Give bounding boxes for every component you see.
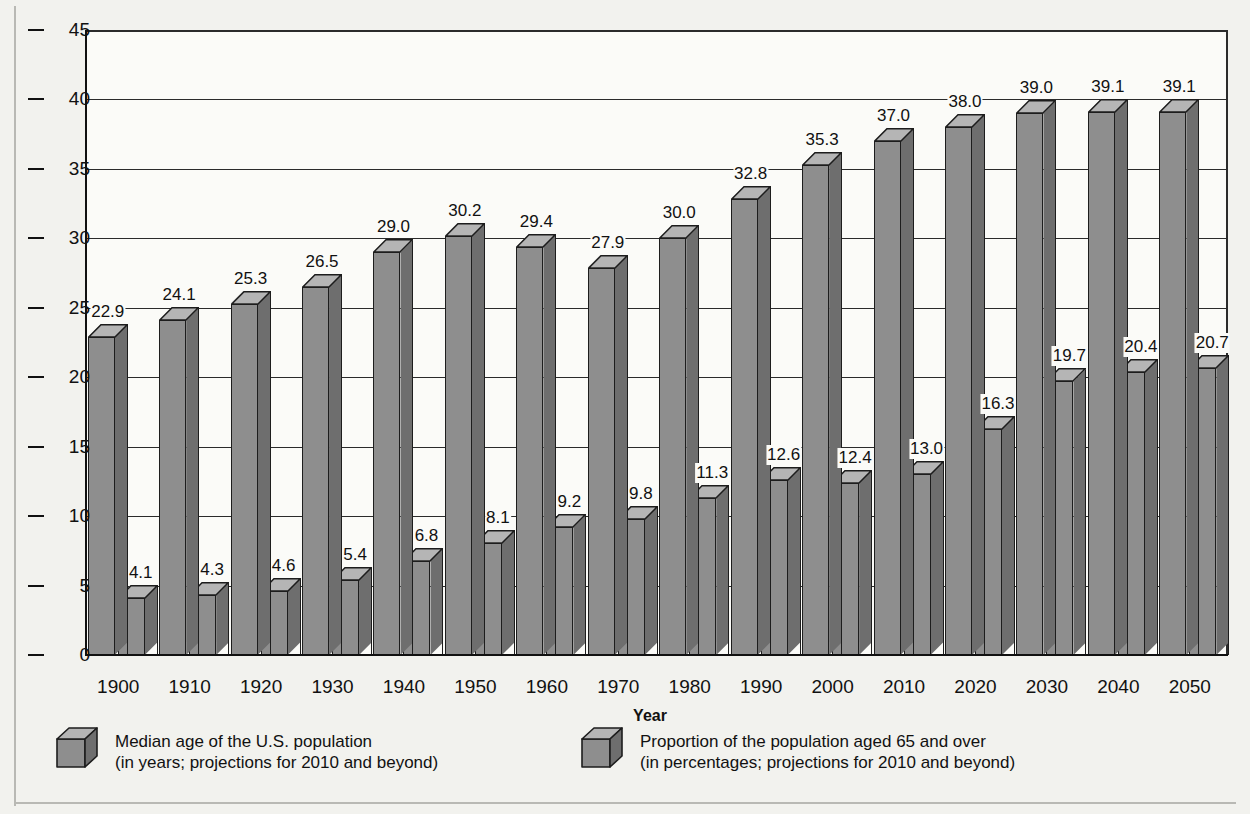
bar-side-outline <box>573 514 586 655</box>
value-label-proportion-1910: 4.3 <box>199 560 225 580</box>
value-label-median-age-2050: 39.1 <box>1162 77 1197 97</box>
bar-side-outline <box>859 470 872 655</box>
bar-side-outline <box>788 467 801 655</box>
value-label-median-age-1960: 29.4 <box>519 212 554 232</box>
value-label-proportion-1970: 9.8 <box>628 484 654 504</box>
bar-side-outline <box>716 485 729 655</box>
bar-side-outline <box>931 461 944 655</box>
bar-front-face <box>302 287 329 655</box>
value-label-median-age-1950: 30.2 <box>447 201 482 221</box>
y-axis-tick-mark <box>28 29 44 31</box>
x-axis-tick-label-1900: 1900 <box>97 676 139 698</box>
bar-side-outline <box>543 234 556 655</box>
value-label-median-age-1910: 24.1 <box>162 285 197 305</box>
bar-front-face <box>1088 112 1115 655</box>
bar-side-outline <box>686 225 699 655</box>
plot-area: 39.120.739.120.439.019.738.016.337.013.0… <box>85 30 1228 655</box>
value-label-proportion-1940: 6.8 <box>414 526 440 546</box>
value-label-median-age-1970: 27.9 <box>590 233 625 253</box>
y-axis-tick-label: 0 <box>44 644 90 666</box>
y-axis-line <box>85 30 87 655</box>
x-axis-tick-label-1930: 1930 <box>311 676 353 698</box>
bar-side-outline <box>115 324 128 655</box>
value-label-median-age-1900: 22.9 <box>90 302 125 322</box>
gridline <box>85 99 1228 100</box>
x-axis-tick-label-2050: 2050 <box>1169 676 1211 698</box>
value-label-proportion-2010: 13.0 <box>909 439 944 459</box>
bar-side-outline <box>1216 355 1229 656</box>
bar-front-face <box>874 141 901 655</box>
gridline <box>85 238 1228 239</box>
x-axis-tick-label-2010: 2010 <box>883 676 925 698</box>
value-label-proportion-1990: 12.6 <box>766 445 801 465</box>
value-label-proportion-1960: 9.2 <box>557 492 583 512</box>
x-axis-tick-label-1980: 1980 <box>669 676 711 698</box>
bar-front-face <box>159 320 186 655</box>
chart-legend: Median age of the U.S. population(in yea… <box>55 726 1175 788</box>
bar-median-age-1980 <box>659 225 699 655</box>
bar-side-outline <box>186 307 199 655</box>
value-label-proportion-2020: 16.3 <box>980 394 1015 414</box>
legend-label-line-2: (in percentages; projections for 2010 an… <box>640 752 1015 773</box>
bar-front-face <box>659 238 686 655</box>
y-axis-tick-label: 40 <box>44 88 90 110</box>
bar-side-outline <box>1145 359 1158 655</box>
value-label-median-age-2020: 38.0 <box>947 92 982 112</box>
bar-side-outline <box>645 506 658 655</box>
bar-side-outline <box>1043 100 1056 655</box>
page-frame-left-rule <box>14 6 16 806</box>
x-axis-tick-label-1990: 1990 <box>740 676 782 698</box>
value-label-proportion-1930: 5.4 <box>342 545 368 565</box>
value-label-proportion-2050: 20.7 <box>1195 333 1230 353</box>
x-axis-tick-label-2000: 2000 <box>811 676 853 698</box>
x-axis-line <box>85 654 1228 656</box>
bar-median-age-2050 <box>1159 99 1199 655</box>
legend-label: Proportion of the population aged 65 and… <box>640 726 1015 774</box>
value-label-median-age-1930: 26.5 <box>304 252 339 272</box>
y-axis-tick-label: 25 <box>44 297 90 319</box>
page-frame-bottom-rule <box>14 802 1236 804</box>
bar-median-age-1990 <box>731 186 771 655</box>
bar-front-face <box>945 127 972 655</box>
bar-median-age-1970 <box>588 255 628 656</box>
bar-front-face <box>1016 113 1043 655</box>
legend-item-2: Proportion of the population aged 65 and… <box>580 726 1015 774</box>
x-axis-tick-label-1910: 1910 <box>169 676 211 698</box>
bar-side-outline <box>758 186 771 655</box>
bar-median-age-2020 <box>945 114 985 655</box>
y-axis-tick-label: 5 <box>44 575 90 597</box>
y-axis-tick-mark <box>28 446 44 448</box>
bar-front-face <box>231 304 258 655</box>
x-axis-tick-label-2040: 2040 <box>1097 676 1139 698</box>
value-label-median-age-1980: 30.0 <box>662 203 697 223</box>
bar-median-age-1910 <box>159 307 199 655</box>
value-label-median-age-2030: 39.0 <box>1019 78 1054 98</box>
bar-median-age-2030 <box>1016 100 1056 655</box>
bar-median-age-1940 <box>373 239 413 655</box>
x-axis-tick-label-2020: 2020 <box>954 676 996 698</box>
y-axis-tick-mark <box>28 307 44 309</box>
legend-label: Median age of the U.S. population(in yea… <box>115 726 438 774</box>
y-axis-tick-label: 30 <box>44 227 90 249</box>
y-axis-tick-label: 15 <box>44 436 90 458</box>
y-axis-tick-label: 10 <box>44 505 90 527</box>
bar-front-face <box>1159 112 1186 655</box>
bar-front-face <box>516 247 543 655</box>
x-axis-tick-label-1920: 1920 <box>240 676 282 698</box>
bar-front-face <box>88 337 115 655</box>
y-axis-tick-mark <box>28 237 44 239</box>
x-axis-title: Year <box>633 707 667 725</box>
bar-side-outline <box>1115 99 1128 655</box>
x-axis-tick-label-2030: 2030 <box>1026 676 1068 698</box>
bar-side-outline <box>1002 416 1015 655</box>
value-label-median-age-1940: 29.0 <box>376 217 411 237</box>
bar-median-age-2040 <box>1088 99 1128 655</box>
bar-median-age-1960 <box>516 234 556 655</box>
y-axis-tick-label: 35 <box>44 158 90 180</box>
y-axis-tick-mark <box>28 376 44 378</box>
legend-label-line-1: Median age of the U.S. population <box>115 731 438 752</box>
bar-median-age-2000 <box>802 152 842 655</box>
bar-side-outline <box>329 274 342 655</box>
bar-side-outline <box>1073 368 1086 655</box>
y-axis-tick-mark <box>28 168 44 170</box>
